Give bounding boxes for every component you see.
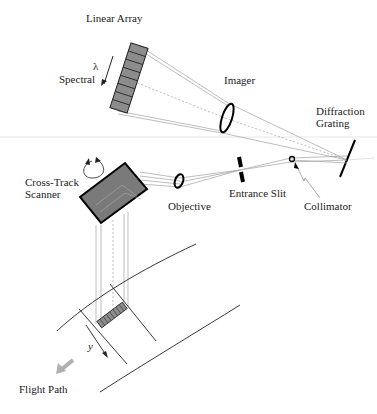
background-band bbox=[0, 136, 377, 138]
spectrometer-diagram: λ Spectral Linear Array Imager Diffracti… bbox=[0, 0, 377, 414]
imager-label: Imager bbox=[224, 74, 255, 86]
diffraction-label-line1: Diffraction bbox=[316, 105, 365, 117]
objective-label: Objective bbox=[168, 200, 211, 212]
rotation-arrow-icon bbox=[84, 157, 104, 178]
collimator-pointer bbox=[294, 162, 320, 198]
lower-ray-bundle bbox=[140, 156, 347, 187]
cross-track-label-line2: Scanner bbox=[25, 188, 61, 200]
spectral-label: Spectral bbox=[59, 73, 95, 85]
collimator-label: Collimator bbox=[304, 200, 352, 212]
ground-swath bbox=[57, 244, 240, 392]
linear-array-label: Linear Array bbox=[86, 12, 143, 24]
spectral-direction-arrow bbox=[101, 56, 113, 86]
diffraction-label-line2: Grating bbox=[316, 117, 350, 129]
cross-track-scanner bbox=[80, 163, 147, 223]
lambda-label: λ bbox=[93, 60, 99, 72]
flight-path-label: Flight Path bbox=[19, 383, 68, 395]
ground-pixel-strip bbox=[97, 302, 127, 328]
upper-ray-bundle bbox=[118, 46, 375, 160]
flight-path-arrow-icon bbox=[56, 360, 73, 374]
y-axis-label: y bbox=[87, 340, 93, 352]
entrance-slit-label: Entrance Slit bbox=[229, 187, 286, 199]
imager-lens-icon bbox=[218, 102, 237, 134]
cross-track-label-line1: Cross-Track bbox=[25, 176, 79, 188]
linear-array-detector bbox=[110, 43, 148, 113]
collimator-icon bbox=[290, 157, 295, 162]
